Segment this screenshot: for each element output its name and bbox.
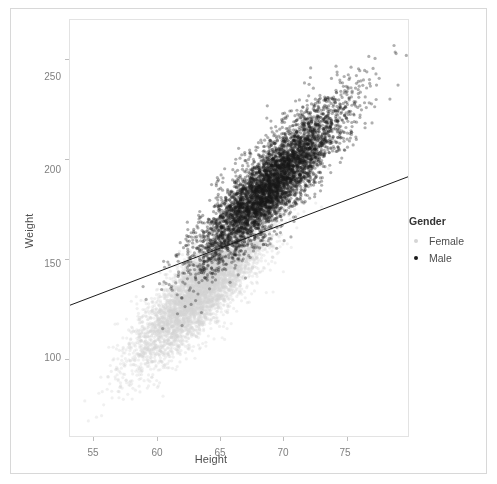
legend-label-male: Male [429,252,452,264]
scatter-plot-panel[interactable]: 250 200 150 100 55 60 65 70 75 Height We… [11,9,488,475]
legend-entry-female[interactable]: Female [407,232,487,249]
x-axis-title: Height [11,453,411,465]
chart-figure: 250 200 150 100 55 60 65 70 75 Height We… [10,8,487,474]
legend-key-male-icon [407,249,424,266]
y-tick-label-100: 100 [21,352,61,363]
y-tick-label-200: 200 [21,164,61,175]
y-tick-label-250: 250 [21,71,61,82]
legend-label-female: Female [429,235,464,247]
legend: Gender Female Male [407,215,487,266]
y-axis-title: Weight [23,191,35,271]
legend-title: Gender [407,215,487,227]
legend-key-female-icon [407,232,424,249]
legend-entry-male[interactable]: Male [407,249,487,266]
